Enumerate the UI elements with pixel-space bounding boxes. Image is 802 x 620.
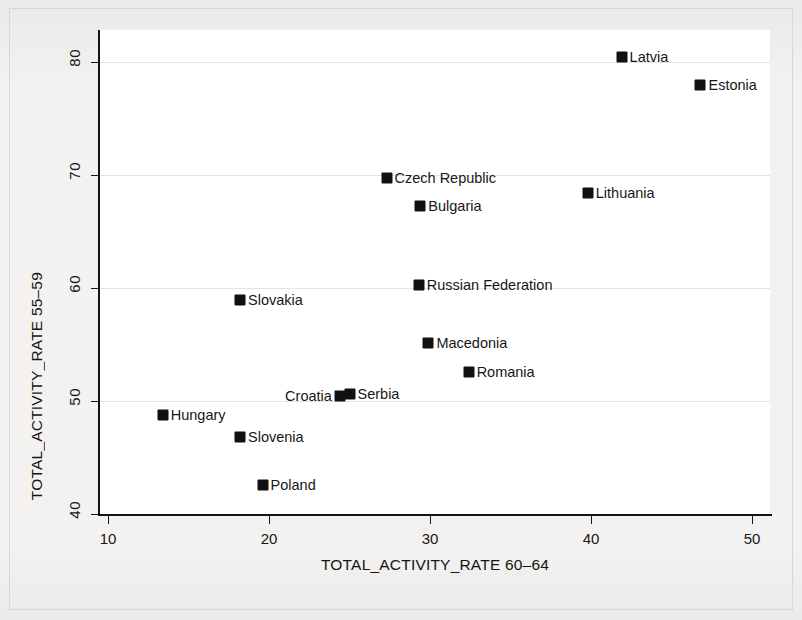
point-label: Bulgaria [428, 197, 481, 213]
point-label: Romania [477, 363, 535, 379]
plot-area: LatviaEstoniaCzech RepublicLithuaniaBulg… [98, 30, 770, 514]
point-marker-icon [616, 52, 627, 63]
gridline-y-50 [98, 401, 770, 402]
gridline-y-80 [98, 62, 770, 63]
x-tick-label-10: 10 [100, 530, 117, 547]
y-axis-line [98, 30, 100, 516]
point-label: Lithuania [596, 185, 655, 201]
x-axis-line [98, 514, 772, 516]
y-tick-50 [91, 401, 98, 402]
point-label: Estonia [708, 76, 756, 92]
x-tick-50 [752, 516, 753, 524]
y-tick-label-40: 40 [66, 501, 83, 519]
x-axis-title: TOTAL_ACTIVITY_RATE 60–64 [98, 556, 772, 574]
y-tick-70 [91, 175, 98, 176]
x-tick-label-50: 50 [744, 530, 761, 547]
point-marker-icon [235, 432, 246, 443]
y-tick-label-70: 70 [66, 162, 83, 180]
point-marker-icon [381, 173, 392, 184]
x-tick-label-30: 30 [422, 530, 439, 547]
y-tick-label-50: 50 [66, 388, 83, 406]
x-tick-20 [269, 516, 270, 524]
point-label: Croatia [285, 388, 332, 404]
x-tick-10 [108, 516, 109, 524]
point-label: Serbia [358, 386, 400, 402]
point-marker-icon [157, 409, 168, 420]
point-marker-icon [463, 366, 474, 377]
point-marker-icon [423, 338, 434, 349]
point-label: Latvia [630, 49, 669, 65]
y-axis-title: TOTAL_ACTIVITY_RATE 55–59 [28, 272, 46, 500]
figure-canvas: LatviaEstoniaCzech RepublicLithuaniaBulg… [0, 0, 802, 620]
x-tick-label-40: 40 [583, 530, 600, 547]
x-tick-40 [591, 516, 592, 524]
point-label: Macedonia [436, 335, 507, 351]
y-tick-label-80: 80 [66, 49, 83, 67]
point-marker-icon [415, 200, 426, 211]
point-marker-icon [695, 79, 706, 90]
point-label: Slovenia [248, 429, 304, 445]
point-marker-icon [344, 389, 355, 400]
y-tick-80 [91, 62, 98, 63]
x-tick-30 [430, 516, 431, 524]
y-tick-40 [91, 514, 98, 515]
point-marker-icon [235, 295, 246, 306]
y-tick-60 [91, 288, 98, 289]
point-label: Slovakia [248, 292, 303, 308]
point-label: Czech Republic [395, 170, 497, 186]
point-label: Russian Federation [427, 276, 553, 292]
point-marker-icon [334, 391, 345, 402]
y-tick-label-60: 60 [66, 275, 83, 293]
x-tick-label-20: 20 [261, 530, 278, 547]
point-marker-icon [582, 188, 593, 199]
point-label: Hungary [171, 406, 226, 422]
point-marker-icon [413, 279, 424, 290]
point-marker-icon [257, 479, 268, 490]
point-label: Poland [271, 476, 316, 492]
